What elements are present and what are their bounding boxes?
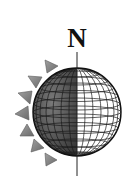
sun-ray-icon [45, 153, 57, 166]
sun-ray-icon [18, 91, 32, 104]
sun-ray-icon [28, 76, 42, 88]
sun-ray-icon [45, 60, 58, 73]
north-label: N [65, 24, 89, 52]
sun-ray-icon [15, 106, 29, 120]
sun-ray-icon [20, 124, 34, 136]
sun-ray-icon [31, 139, 44, 152]
